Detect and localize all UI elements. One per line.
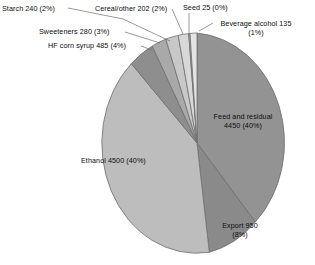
pie-label-starch: Starch 240 (2%): [2, 4, 55, 13]
pie-label-seed: Seed 25 (0%): [183, 3, 228, 12]
pie-chart: Starch 240 (2%) Cereal/other 202 (2%) Se…: [0, 0, 315, 265]
pie-label-export: Export 950 (8%): [213, 221, 267, 239]
leader-line-beverage-alcohol: [199, 23, 213, 31]
pie-label-beverage-alcohol-line1: Beverage alcohol 135: [221, 19, 292, 28]
pie-label-sweeteners: Sweeteners 280 (3%): [39, 27, 109, 36]
pie-label-cereal-other: Cereal/other 202 (2%): [95, 4, 167, 13]
leader-line-cereal-other: [172, 9, 183, 34]
pie-label-feed-and-residual-line1: Feed and residual: [214, 112, 273, 121]
pie-label-ethanol: Ethanol 4500 (40%): [81, 156, 146, 165]
pie-label-hf-corn-syrup: HF corn syrup 485 (4%): [48, 41, 126, 50]
pie-label-feed-and-residual-line2: 4450 (40%): [224, 121, 262, 130]
pie-label-export-line1: Export 950: [222, 221, 257, 230]
pie-label-beverage-alcohol-line2: (1%): [248, 28, 263, 37]
pie-chart-canvas: [0, 0, 315, 265]
pie-label-feed-and-residual: Feed and residual 4450 (40%): [205, 112, 281, 130]
pie-label-export-line2: (8%): [232, 230, 247, 239]
pie-label-beverage-alcohol: Beverage alcohol 135 (1%): [213, 19, 299, 37]
